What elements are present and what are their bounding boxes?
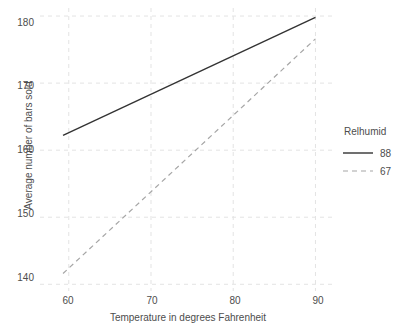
x-tick-label-60: 60: [51, 295, 85, 306]
plot-panel: [40, 8, 336, 291]
y-tick-label-140: 140: [4, 272, 34, 283]
x-tick-label-70: 70: [135, 295, 169, 306]
y-axis-title: Average number of bars sold: [23, 56, 34, 236]
x-tick-label-80: 80: [218, 295, 252, 306]
legend-item-67[interactable]: 67: [342, 163, 402, 179]
legend-item-88[interactable]: 88: [342, 145, 402, 161]
data-line-relhumid-67: [63, 39, 315, 274]
legend-key-solid-line-icon: [342, 147, 374, 159]
x-tick-label-90: 90: [301, 295, 335, 306]
legend-title: Relhumid: [344, 126, 402, 137]
data-line-relhumid-88: [63, 17, 315, 135]
chart-legend: Relhumid 88 67: [342, 126, 402, 181]
chart-figure: 180 170 160 150 140 60 70 80 90 Temperat…: [0, 0, 404, 333]
plot-canvas: [40, 8, 336, 291]
legend-label-88: 88: [380, 148, 391, 159]
gridlines-horizontal: [40, 16, 336, 284]
legend-label-67: 67: [380, 166, 391, 177]
gridlines-vertical: [69, 8, 316, 291]
y-tick-label-180: 180: [4, 17, 34, 28]
legend-key-dashed-line-icon: [342, 165, 374, 177]
x-axis-title: Temperature in degrees Fahrenheit: [40, 312, 336, 323]
